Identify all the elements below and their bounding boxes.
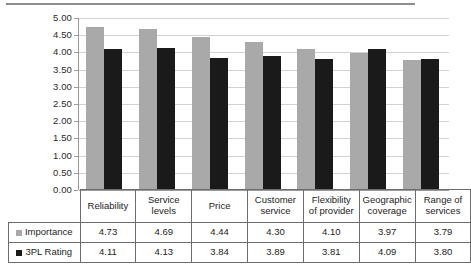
column-header: Geographiccoverage <box>359 190 415 223</box>
y-tick-label: 3.50 <box>30 65 72 75</box>
legend-swatch-icon <box>16 250 22 256</box>
column-header: Price <box>192 190 248 223</box>
bar-importance <box>403 60 421 190</box>
bar-importance <box>86 27 104 190</box>
bar-rating <box>210 58 228 190</box>
table-cell-value: 4.44 <box>192 223 248 243</box>
table-cell-value: 4.09 <box>359 243 415 263</box>
bar-rating <box>157 48 175 190</box>
legend-entry: Importance <box>9 223 81 243</box>
bar-group <box>79 18 132 190</box>
table-cell-value: 3.81 <box>303 243 359 263</box>
y-tick-label: 4.50 <box>30 30 72 40</box>
bar-rating <box>263 56 281 190</box>
table-header-row: ReliabilityServicelevelsPriceCustomerser… <box>9 190 471 223</box>
y-tick-label: 3.00 <box>30 82 72 92</box>
y-tick-label: 5.00 <box>30 13 72 23</box>
column-header-line: service <box>249 206 302 217</box>
plot-region: 5.004.504.003.503.002.502.001.501.000.50… <box>0 18 468 190</box>
bar-group <box>238 18 291 190</box>
table-cell-value: 4.73 <box>80 223 136 243</box>
column-header-line: services <box>417 206 470 217</box>
column-header-line: Reliability <box>82 201 135 212</box>
bar-importance <box>297 49 315 190</box>
column-header-line: of provider <box>305 206 358 217</box>
bar-group <box>132 18 185 190</box>
bar-group <box>290 18 343 190</box>
y-tick-label: 2.50 <box>30 99 72 109</box>
table-cell-value: 3.89 <box>248 243 304 263</box>
y-tick-label: 1.00 <box>30 151 72 161</box>
table-cell-value: 3.79 <box>415 223 471 243</box>
table-cell-value: 3.97 <box>359 223 415 243</box>
y-axis: 5.004.504.003.503.002.502.001.501.000.50… <box>30 18 72 190</box>
legend-label: 3PL Rating <box>25 246 72 257</box>
column-header: Flexibilityof provider <box>303 190 359 223</box>
bar-rating <box>315 59 333 190</box>
bar-rating <box>104 49 122 190</box>
bar-importance <box>350 53 368 190</box>
bar-rating <box>368 49 386 190</box>
column-header: Servicelevels <box>136 190 192 223</box>
column-header: Range ofservices <box>415 190 471 223</box>
column-header-line: Price <box>193 201 246 212</box>
bar-importance <box>139 29 157 190</box>
table-row: 3PL Rating4.114.133.843.893.814.093.80 <box>9 243 471 263</box>
table-row: Importance4.734.694.444.304.103.973.79 <box>9 223 471 243</box>
legend-label: Importance <box>25 226 73 237</box>
bars-layer <box>79 18 449 190</box>
top-divider-rule <box>6 3 415 5</box>
column-header-line: coverage <box>361 206 414 217</box>
bar-group <box>343 18 396 190</box>
table-cell-value: 3.80 <box>415 243 471 263</box>
plot-area <box>78 18 448 190</box>
y-tick-label: 1.50 <box>30 134 72 144</box>
table-cell-value: 4.30 <box>248 223 304 243</box>
table-cell-value: 4.10 <box>303 223 359 243</box>
bar-importance <box>245 42 263 190</box>
table-cell-value: 4.11 <box>80 243 136 263</box>
data-table: ReliabilityServicelevelsPriceCustomerser… <box>8 189 471 263</box>
column-header: Reliability <box>80 190 136 223</box>
legend-entry: 3PL Rating <box>9 243 81 263</box>
table-cell-value: 4.69 <box>136 223 192 243</box>
column-header: Customerservice <box>248 190 304 223</box>
y-tick-label: 2.00 <box>30 116 72 126</box>
y-tick-label: 4.00 <box>30 48 72 58</box>
bar-rating <box>421 59 439 190</box>
bar-group <box>396 18 449 190</box>
legend-swatch-icon <box>16 230 22 236</box>
table-cell-value: 3.84 <box>192 243 248 263</box>
data-table-region: ReliabilityServicelevelsPriceCustomerser… <box>8 189 449 261</box>
column-header-line: levels <box>137 206 190 217</box>
bar-group <box>185 18 238 190</box>
y-tick-label: 0.50 <box>30 168 72 178</box>
bar-importance <box>192 37 210 190</box>
table-cell-value: 4.13 <box>136 243 192 263</box>
table-corner-cell <box>9 190 81 223</box>
